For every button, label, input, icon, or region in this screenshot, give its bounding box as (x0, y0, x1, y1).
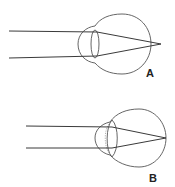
refracted-ray-bottom-a (97, 44, 161, 56)
light-ray-top-b (26, 126, 112, 127)
panel-b (26, 109, 166, 167)
lens-a (91, 30, 99, 58)
eyeball-outline-a (78, 14, 151, 74)
refracted-ray-top-a (97, 32, 161, 44)
panel-label-a: A (146, 67, 154, 79)
eye-diagram (0, 0, 175, 187)
panel-a (9, 14, 161, 74)
refracted-ray-top-b (112, 127, 166, 138)
lens-b (107, 120, 117, 157)
panel-label-b: B (149, 172, 157, 184)
refracted-ray-bottom-b (112, 138, 166, 148)
